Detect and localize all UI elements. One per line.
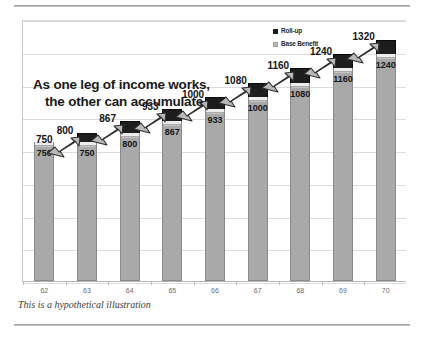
slide-canvas: 7507507508008008678679339331000100010801… (0, 0, 421, 338)
x-tick-label-70: 70 (369, 287, 403, 294)
bar-segment-base-benefit[interactable] (34, 145, 54, 281)
bar-segment-rollup[interactable] (120, 121, 140, 133)
x-tick-label-66: 66 (198, 287, 232, 294)
bottom-divider-rule (14, 324, 410, 326)
bar-value-label-total: 1160 (267, 60, 289, 71)
x-tick-label-63: 63 (70, 287, 104, 294)
chart-legend: Roll-up Base Benefit (273, 26, 318, 52)
bar-value-label-total: 867 (99, 113, 116, 124)
legend-item-base-benefit: Base Benefit (273, 39, 318, 49)
bar-value-label-total: 1320 (353, 31, 375, 42)
headline-line-2: the other can accumulate (33, 93, 210, 110)
bar-highlight-line (122, 137, 138, 138)
x-tick-label-69: 69 (326, 287, 360, 294)
x-tick-mark (66, 282, 67, 285)
bar-segment-rollup[interactable] (333, 54, 353, 68)
bar-value-label-base: 933 (207, 115, 222, 125)
bar-segment-rollup[interactable] (162, 109, 182, 121)
bar-segment-base-benefit[interactable] (290, 86, 310, 281)
x-tick-mark (236, 282, 237, 285)
bar-segment-base-benefit[interactable] (333, 71, 353, 281)
bar-group[interactable] (34, 142, 54, 281)
bar-segment-base-benefit[interactable] (376, 57, 396, 281)
bar-highlight-line (164, 125, 180, 126)
bar-value-label-base: 750 (37, 148, 52, 158)
gridline (23, 283, 406, 284)
bar-group[interactable] (290, 68, 310, 281)
x-tick-mark (194, 282, 195, 285)
legend-label-rollup: Roll-up (281, 26, 302, 36)
x-tick-label-67: 67 (241, 287, 275, 294)
chart-plot-area: 7507507508008008678679339331000100010801… (22, 20, 406, 282)
x-tick-label-65: 65 (155, 287, 189, 294)
bar-segment-base-benefit[interactable] (205, 112, 225, 281)
bar-value-label-base: 1000 (248, 103, 268, 113)
bar-group[interactable] (333, 54, 353, 281)
top-divider-rule (14, 5, 410, 7)
x-tick-label-62: 62 (27, 287, 61, 294)
chart-caption: This is a hypothetical illustration (18, 299, 151, 310)
x-tick-mark (108, 282, 109, 285)
legend-label-base-benefit: Base Benefit (281, 39, 318, 49)
bar-group[interactable] (376, 40, 396, 282)
bar-highlight-line (207, 113, 223, 114)
bar-value-label-base: 1160 (333, 74, 353, 84)
bar-value-label-base: 1080 (290, 89, 310, 99)
bar-highlight-line (79, 146, 95, 147)
bar-value-label-total: 750 (36, 134, 53, 145)
bar-highlight-line (335, 72, 351, 73)
bar-value-label-base: 1240 (376, 60, 396, 70)
bar-segment-rollup[interactable] (290, 68, 310, 82)
bar-value-label-base: 867 (165, 127, 180, 137)
bar-value-label-total: 1080 (225, 75, 247, 86)
bar-highlight-line (36, 146, 52, 147)
bar-segment-base-benefit[interactable] (120, 136, 140, 281)
bar-segment-rollup[interactable] (248, 83, 268, 97)
x-tick-mark (279, 282, 280, 285)
x-tick-mark (364, 282, 365, 285)
bar-segment-rollup[interactable] (77, 133, 97, 142)
gridline (23, 21, 406, 22)
x-tick-mark (23, 282, 24, 285)
x-tick-label-64: 64 (113, 287, 147, 294)
bar-value-label-total: 800 (57, 125, 74, 136)
bar-segment-base-benefit[interactable] (162, 124, 182, 281)
x-tick-mark (151, 282, 152, 285)
legend-swatch-rollup-icon (273, 29, 278, 34)
bar-segment-rollup[interactable] (376, 40, 396, 54)
bar-segment-base-benefit[interactable] (77, 145, 97, 281)
x-axis-line (23, 281, 406, 282)
x-tick-mark (322, 282, 323, 285)
bar-value-label-base: 800 (122, 139, 137, 149)
bar-highlight-line (292, 87, 308, 88)
bar-highlight-line (378, 58, 394, 59)
legend-item-rollup: Roll-up (273, 26, 318, 36)
bar-value-label-base: 750 (79, 148, 94, 158)
legend-swatch-base-benefit-icon (273, 42, 278, 47)
chart-headline: As one leg of income works, the other ca… (33, 76, 210, 110)
headline-line-1: As one leg of income works, (33, 77, 210, 92)
bar-highlight-line (250, 101, 266, 102)
x-tick-label-68: 68 (283, 287, 317, 294)
bar-segment-base-benefit[interactable] (248, 100, 268, 281)
